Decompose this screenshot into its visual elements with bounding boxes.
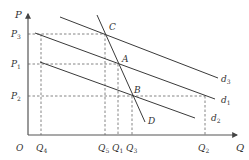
point-b-label: B [133, 85, 141, 95]
curve-cd [97, 15, 145, 122]
q2-label: Q2 [198, 143, 209, 154]
p2-label: P2 [10, 91, 21, 102]
q3-label: Q3 [126, 143, 137, 154]
curve-d2 [40, 62, 195, 118]
curve-d3 [60, 17, 218, 78]
y-axis-label: P [14, 9, 22, 20]
q5-label: Q5 [98, 143, 109, 154]
point-d-label: D [147, 116, 155, 126]
d3-label: d3 [221, 74, 231, 85]
d2-label: d2 [211, 113, 221, 124]
q4-label: Q4 [36, 143, 47, 154]
point-c-label: C [109, 22, 116, 32]
point-a-label: A [121, 54, 129, 64]
demand-diagram: P Q O P3 P1 P2 Q4 Q5 Q1 Q3 Q2 d3 d1 d2 C… [0, 0, 249, 160]
d1-label: d1 [221, 95, 231, 106]
q1-label: Q1 [112, 143, 123, 154]
x-axis-label: Q [236, 142, 244, 153]
p1-label: P1 [10, 59, 21, 70]
origin-label: O [16, 143, 24, 153]
p3-label: P3 [10, 29, 21, 40]
